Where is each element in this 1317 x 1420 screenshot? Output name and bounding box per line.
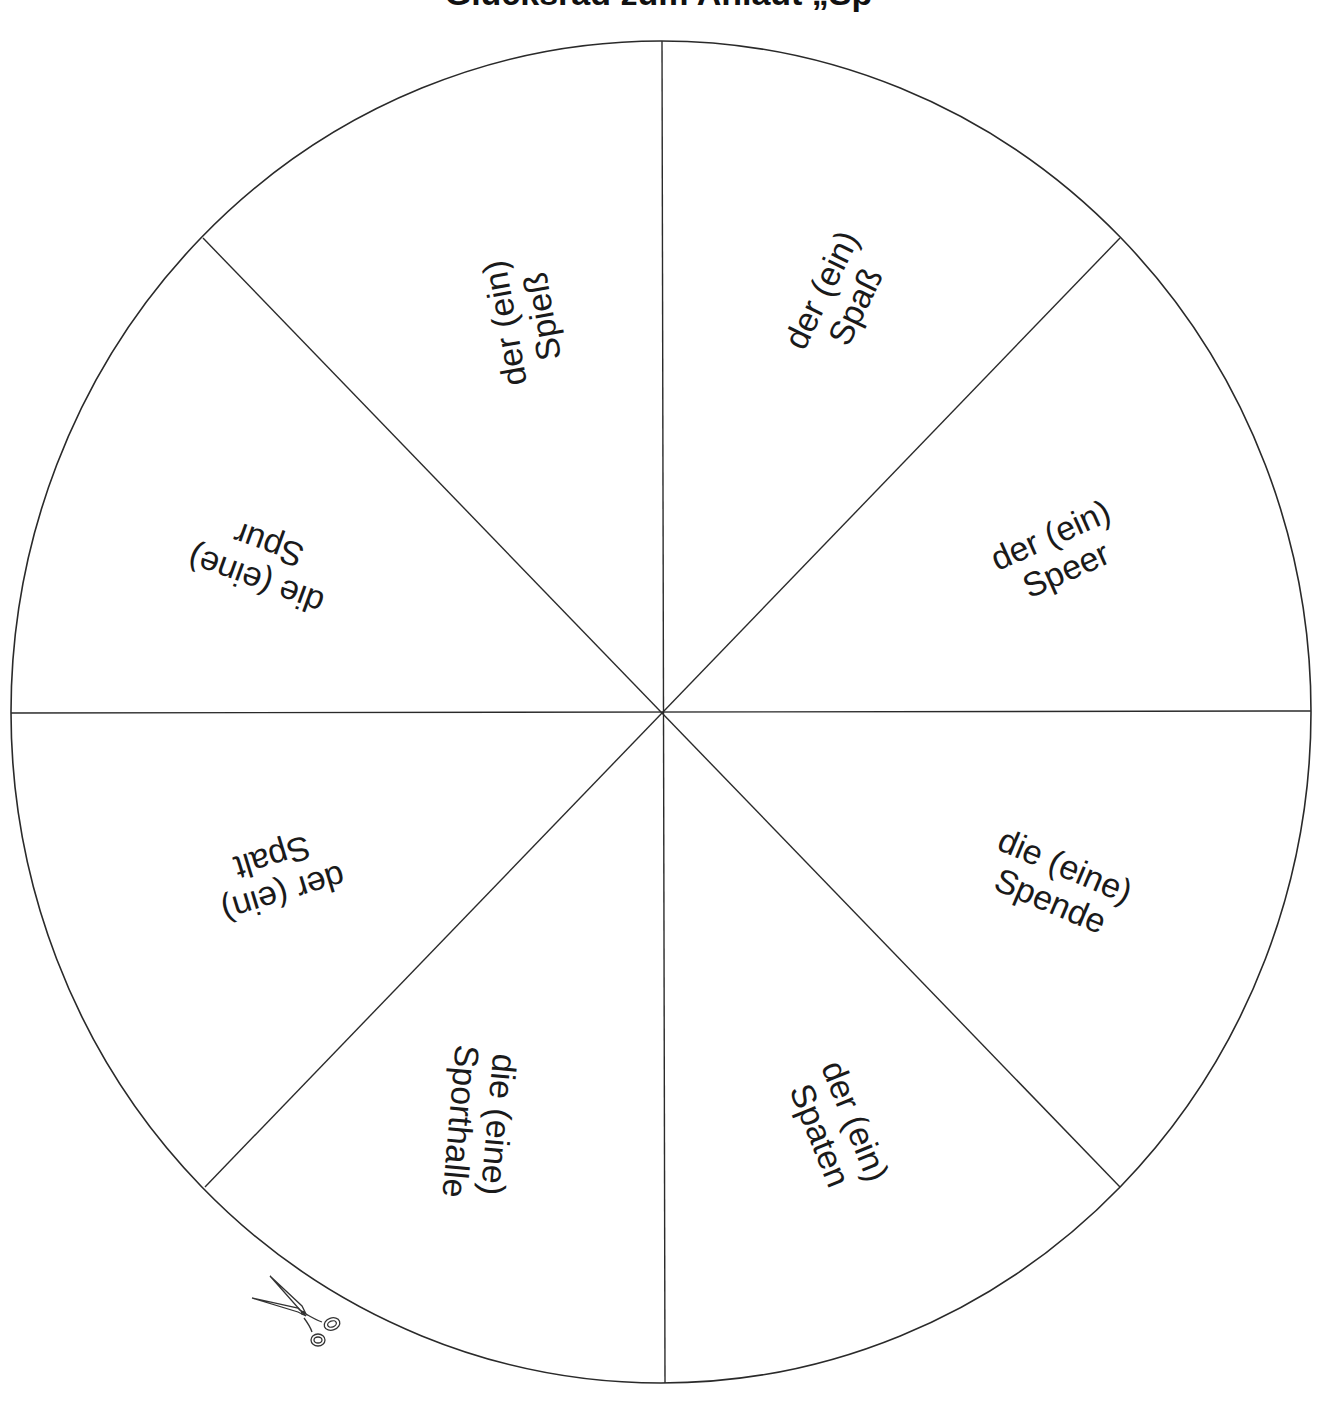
spin-wheel <box>0 0 1317 1420</box>
scissors-icon <box>248 1262 348 1347</box>
